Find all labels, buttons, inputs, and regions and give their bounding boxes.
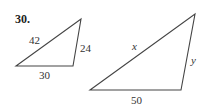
large-base-label: 50	[131, 94, 143, 106]
similar-triangles-figure: 30. 42 24 30 x y 50	[0, 0, 210, 111]
large-right-side-label: y	[190, 54, 196, 66]
small-base-label: 30	[39, 69, 51, 81]
problem-number: 30.	[15, 12, 30, 26]
small-triangle: 42 24 30	[16, 19, 92, 81]
large-triangle: x y 50	[90, 14, 196, 106]
small-triangle-shape	[16, 19, 81, 66]
large-hypotenuse-label: x	[131, 40, 137, 52]
small-hypotenuse-label: 42	[29, 34, 40, 46]
large-triangle-shape	[90, 14, 195, 90]
small-right-side-label: 24	[80, 42, 92, 54]
